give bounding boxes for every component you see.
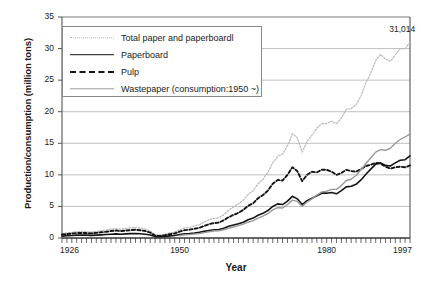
y-tick-label: 25: [28, 75, 54, 84]
x-tick-label: 1980: [317, 246, 336, 255]
chart-legend: Total paper and paperboardl Paperboard P…: [62, 26, 262, 97]
y-tick-label: 15: [28, 138, 54, 147]
y-tick-label: 10: [28, 170, 54, 179]
legend-swatch-total-paper-icon: [70, 33, 114, 43]
legend-swatch-pulp-icon: [70, 67, 114, 77]
legend-label-total-paper: Total paper and paperboardl: [121, 33, 234, 43]
x-axis-label: Year: [62, 262, 410, 273]
legend-swatch-wastepaper-icon: [70, 84, 114, 94]
legend-label-wastepaper: Wastepaper (consumption:1950 ~): [121, 84, 259, 94]
x-tick-label: 1926: [60, 246, 79, 255]
legend-label-paperboard: Paperboard: [121, 50, 168, 60]
y-tick-label: 30: [28, 44, 54, 53]
y-tick-label: 20: [28, 107, 54, 116]
chart-figure: Production/consumption (million tons) Ye…: [0, 0, 430, 283]
y-tick-label: 5: [28, 201, 54, 210]
y-tick-label: 35: [28, 12, 54, 21]
value-annotation: 31,014: [389, 24, 415, 34]
legend-label-pulp: Pulp: [121, 67, 139, 77]
x-tick-label: 1950: [170, 246, 189, 255]
x-tick-label: 1997: [393, 246, 412, 255]
legend-swatch-paperboard-icon: [70, 50, 114, 60]
y-tick-label: 0: [28, 233, 54, 242]
